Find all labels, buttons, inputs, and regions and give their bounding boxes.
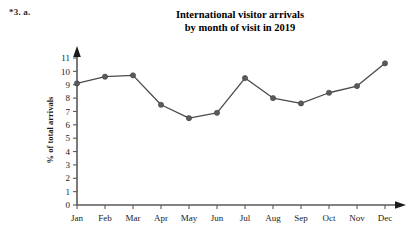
x-axis-tick-labels: JanFebMarAprMayJunJulAugSepOctNovDec bbox=[71, 213, 392, 223]
x-axis-tick-label: Jun bbox=[211, 213, 224, 223]
data-point-jun bbox=[214, 110, 219, 115]
data-point-nov bbox=[354, 83, 359, 88]
y-axis-tick-label: 4 bbox=[66, 147, 71, 157]
y-axis-tick-label: 6 bbox=[66, 120, 71, 130]
y-axis bbox=[73, 46, 81, 205]
data-point-apr bbox=[158, 102, 163, 107]
y-axis-tick-label: 0 bbox=[66, 200, 71, 210]
y-axis-tick-label: 1 bbox=[66, 187, 71, 197]
x-axis-tick-label: Aug bbox=[265, 213, 281, 223]
y-axis-tick-label: 8 bbox=[66, 93, 71, 103]
data-point-aug bbox=[270, 95, 275, 100]
y-axis-tick-label: 7 bbox=[66, 107, 71, 117]
data-point-may bbox=[186, 116, 191, 121]
data-point-feb bbox=[102, 74, 107, 79]
data-point-markers bbox=[74, 61, 387, 121]
y-axis-tick-label: 9 bbox=[66, 80, 71, 90]
y-axis-tick-label: 2 bbox=[66, 173, 71, 183]
x-axis-tick-label: Apr bbox=[154, 213, 168, 223]
y-axis-tick-label: 10 bbox=[61, 67, 71, 77]
y-axis-title: % of total arrivals bbox=[45, 96, 55, 163]
data-point-oct bbox=[326, 90, 331, 95]
data-point-jan bbox=[74, 81, 79, 86]
x-axis-tick-label: Mar bbox=[126, 213, 141, 223]
x-axis-tick-label: May bbox=[181, 213, 198, 223]
data-point-jul bbox=[242, 75, 247, 80]
y-axis-tick-label: 5 bbox=[66, 133, 71, 143]
y-axis-arrowhead bbox=[73, 46, 81, 57]
x-axis-tick-label: Feb bbox=[98, 213, 112, 223]
data-point-dec bbox=[382, 61, 387, 66]
x-axis-tick-label: Oct bbox=[323, 213, 336, 223]
x-axis-tick-label: Jul bbox=[240, 213, 251, 223]
x-axis-tick-label: Jan bbox=[71, 213, 83, 223]
x-axis-tick-label: Nov bbox=[349, 213, 365, 223]
x-axis-tick-label: Dec bbox=[378, 213, 393, 223]
y-axis-tick-labels: 01234567891011 bbox=[61, 53, 71, 210]
y-axis-tick-label: 11 bbox=[61, 53, 70, 63]
data-series-line bbox=[77, 63, 385, 118]
x-axis-arrowhead bbox=[395, 201, 406, 209]
x-axis-tick-label: Sep bbox=[294, 213, 308, 223]
data-point-sep bbox=[298, 101, 303, 106]
data-point-mar bbox=[130, 73, 135, 78]
line-chart: 01234567891011 JanFebMarAprMayJunJulAugS… bbox=[0, 0, 413, 235]
y-axis-tick-label: 3 bbox=[66, 160, 71, 170]
